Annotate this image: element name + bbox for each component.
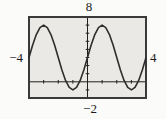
xmax-label: 4 <box>150 51 166 65</box>
ymax-label: 8 <box>81 0 97 14</box>
calculator-graph-figure: 8 −4 4 −2 <box>0 0 166 119</box>
ymin-label: −2 <box>75 102 105 116</box>
xmin-label: −4 <box>0 51 23 65</box>
